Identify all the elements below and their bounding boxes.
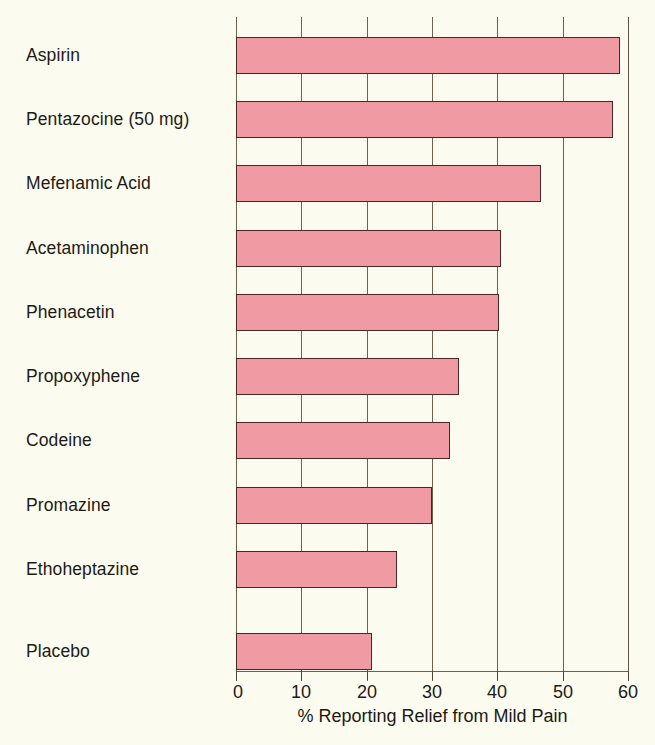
bar	[236, 358, 459, 395]
bar	[236, 37, 620, 74]
x-axis-tick	[497, 671, 498, 680]
x-axis-tick	[628, 671, 629, 680]
x-axis-tick	[301, 671, 302, 680]
category-label: Acetaminophen	[26, 230, 149, 267]
category-label: Aspirin	[26, 37, 80, 74]
category-label: Propoxyphene	[26, 358, 140, 395]
bar-row: Promazine	[0, 487, 655, 524]
x-tick-label: 0	[233, 682, 243, 703]
x-tick-label: 30	[422, 682, 442, 703]
bar-chart: Aspirin Pentazocine (50 mg) Mefenamic Ac…	[0, 0, 655, 745]
bar	[236, 165, 541, 202]
bar-row: Placebo	[0, 633, 655, 670]
x-axis-tick	[432, 671, 433, 680]
bar-row: Mefenamic Acid	[0, 165, 655, 202]
bar-row: Propoxyphene	[0, 358, 655, 395]
bar-row: Phenacetin	[0, 294, 655, 331]
x-tick-label: 60	[618, 682, 638, 703]
bar-row: Aspirin	[0, 37, 655, 74]
category-label: Codeine	[26, 422, 92, 459]
category-label: Phenacetin	[26, 294, 115, 331]
bar	[236, 633, 372, 670]
bar-row: Pentazocine (50 mg)	[0, 101, 655, 138]
category-label: Ethoheptazine	[26, 551, 139, 588]
category-label: Promazine	[26, 487, 111, 524]
category-label: Placebo	[26, 633, 90, 670]
bar-row: Acetaminophen	[0, 230, 655, 267]
category-label: Mefenamic Acid	[26, 165, 151, 202]
x-axis-tick	[563, 671, 564, 680]
bar-row: Codeine	[0, 422, 655, 459]
bar	[236, 422, 450, 459]
x-tick-label: 10	[291, 682, 311, 703]
bar	[236, 230, 501, 267]
x-tick-label: 50	[553, 682, 573, 703]
bar	[236, 551, 397, 588]
bar	[236, 294, 499, 331]
x-tick-label: 20	[357, 682, 377, 703]
category-label: Pentazocine (50 mg)	[26, 101, 189, 138]
x-tick-label: 40	[487, 682, 507, 703]
bar-rows: Aspirin Pentazocine (50 mg) Mefenamic Ac…	[0, 0, 655, 745]
x-axis-tick	[367, 671, 368, 680]
bar	[236, 487, 432, 524]
x-axis-title: % Reporting Relief from Mild Pain	[236, 706, 629, 727]
bar	[236, 101, 613, 138]
x-axis-tick	[236, 671, 237, 680]
bar-row: Ethoheptazine	[0, 551, 655, 588]
